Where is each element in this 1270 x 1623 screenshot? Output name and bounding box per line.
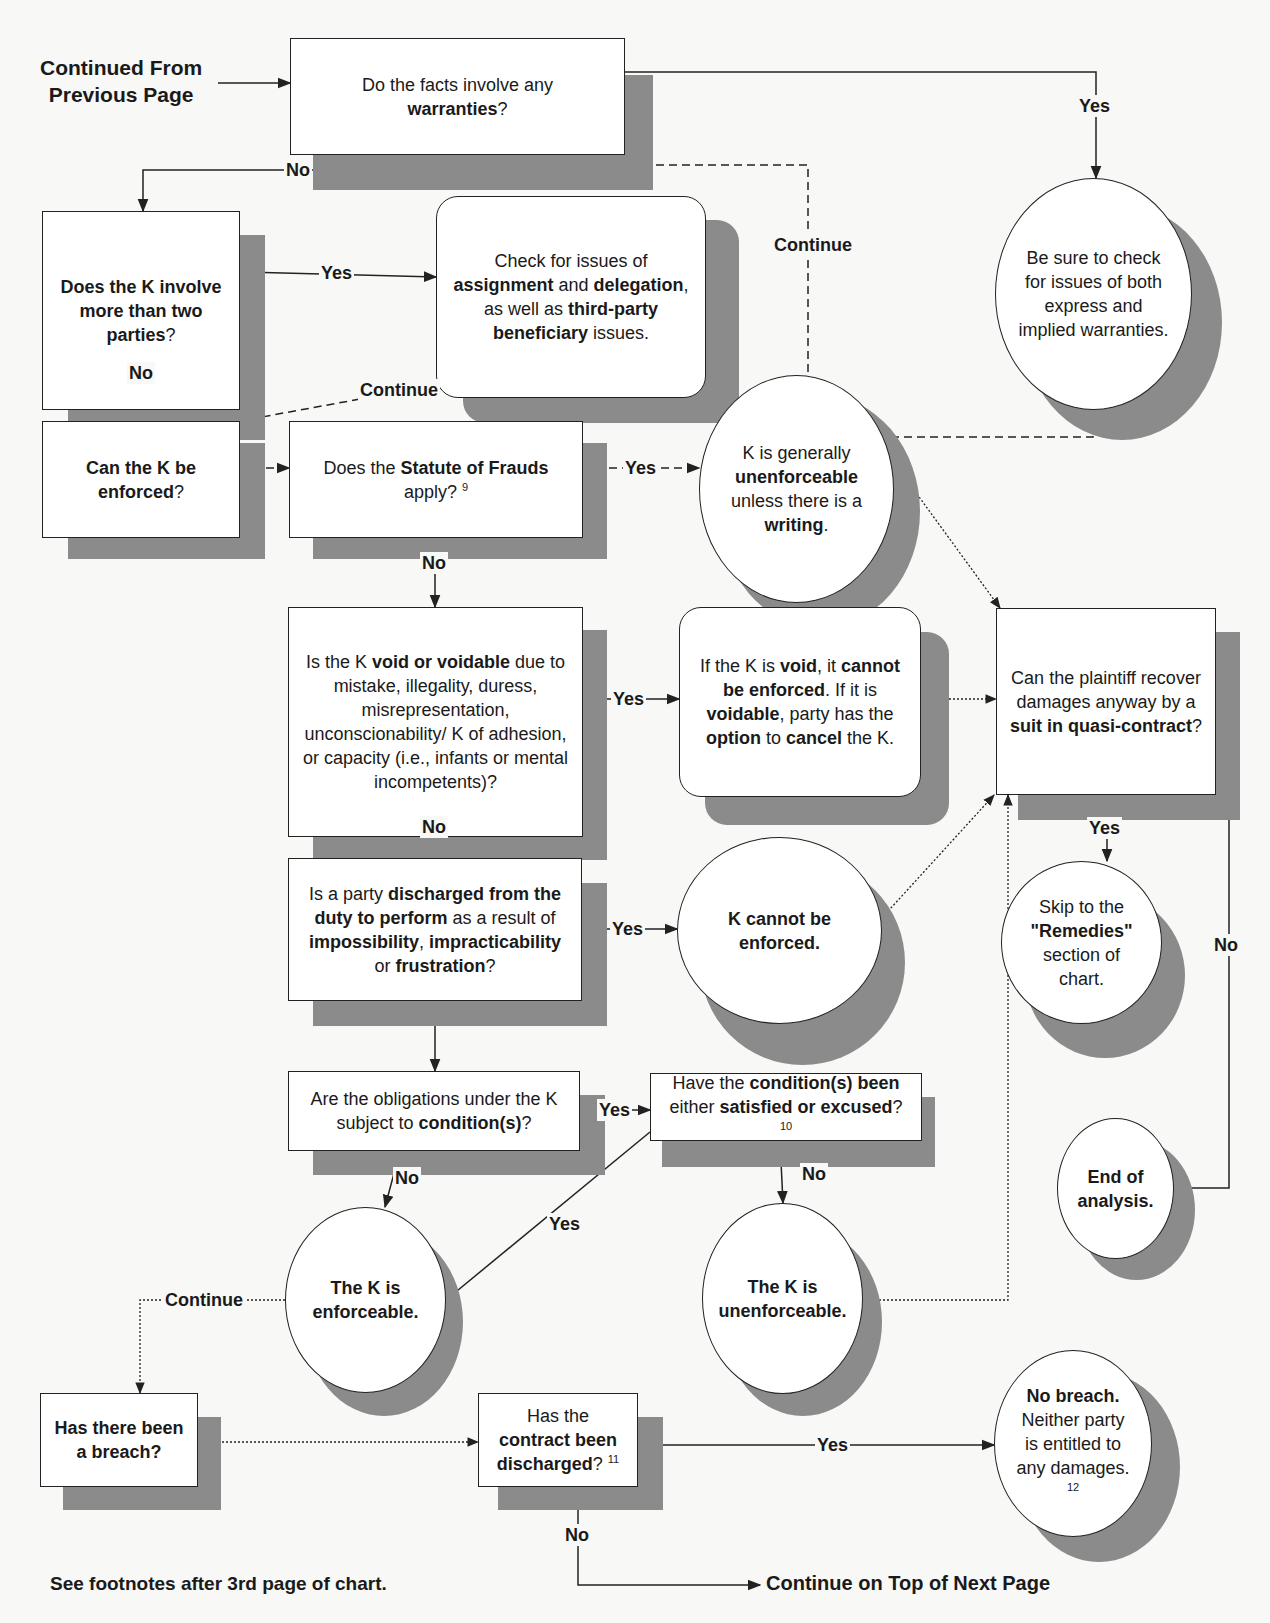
edge-label-quasi-yes: Yes [1087, 817, 1122, 839]
continue-next-page: Continue on Top of Next Page [766, 1572, 1050, 1595]
node-statute-of-frauds: Does the Statute of Frauds apply? 9 [289, 421, 583, 538]
node-assignment-delegation: Check for issues of assignment and deleg… [436, 196, 706, 398]
edge-warranties-yes [625, 72, 1096, 178]
node-cannot-be-enforced: K cannot be enforced. [677, 837, 882, 1024]
node-text: Check for issues of assignment and deleg… [447, 249, 695, 345]
node-text: The K is enforceable. [304, 1276, 427, 1324]
edge-label-warranties-yes: Yes [1077, 95, 1112, 117]
node-breach: Has there been a breach? [40, 1393, 198, 1487]
edge-unenforceable-to-quasi [863, 795, 1008, 1300]
node-can-k-be-enforced: Can the K be enforced? [42, 421, 240, 538]
edge-label-sof-no: No [420, 552, 448, 574]
node-contract-discharged: Has the contract been discharged? 11 [478, 1393, 638, 1487]
node-text: K is generally unenforceable unless ther… [718, 441, 875, 537]
node-conditions: Are the obligations under the K subject … [288, 1071, 580, 1151]
node-k-unenforceable: The K is unenforceable. [702, 1203, 863, 1394]
edge-label-assign-continue: Continue [358, 379, 440, 401]
node-text: Be sure to check for issues of both expr… [1014, 246, 1173, 342]
edge-label-parties-yes: Yes [319, 262, 354, 284]
node-text: Do the facts involve any warranties? [362, 73, 553, 121]
node-text: No breach. Neither party is entitled to … [1013, 1384, 1133, 1504]
node-text: If the K is void, it cannot be enforced.… [690, 654, 910, 750]
node-text: K cannot be enforced. [696, 907, 863, 955]
edge-label-discharged-no: No [563, 1524, 591, 1546]
node-end-of-analysis: End of analysis. [1057, 1118, 1174, 1259]
node-text: Does the Statute of Frauds apply? 9 [300, 456, 572, 504]
edge-label-satisfied-no: No [800, 1163, 828, 1185]
node-conditions-satisfied: Have the condition(s) been either satisf… [650, 1073, 922, 1141]
node-text: Does the K involve more than two parties… [53, 275, 229, 347]
edge-label-void-yes: Yes [611, 688, 646, 710]
node-text: Has there been a breach? [51, 1416, 187, 1464]
node-text: Is a party discharged from the duty to p… [299, 882, 571, 978]
node-quasi-contract: Can the plaintiff recover damages anyway… [996, 608, 1216, 795]
edge-label-conditions-no: No [393, 1167, 421, 1189]
node-text: End of analysis. [1076, 1165, 1155, 1213]
node-void-outcome: If the K is void, it cannot be enforced.… [679, 607, 921, 797]
node-check-warranties: Be sure to check for issues of both expr… [995, 178, 1192, 410]
node-void-voidable: Is the K void or voidable due to mistake… [288, 607, 583, 837]
edge-label-quasi-no: No [1212, 934, 1240, 956]
node-generally-unenforceable: K is generally unenforceable unless ther… [699, 375, 894, 603]
node-k-enforceable: The K is enforceable. [285, 1207, 446, 1393]
node-text: The K is unenforceable. [718, 1275, 846, 1323]
node-text: Can the K be enforced? [53, 456, 229, 504]
continued-from-previous-page: Continued From Previous Page [40, 54, 202, 108]
edge-label-warranty-continue: Continue [772, 234, 854, 256]
node-text: Is the K void or voidable due to mistake… [299, 650, 572, 794]
node-text: Has the contract been discharged? 11 [489, 1404, 627, 1476]
node-remedies: Skip to the "Remedies" section of chart. [1001, 861, 1162, 1024]
edge-label-warranties-no: No [284, 159, 312, 181]
flowchart-canvas: Continued From Previous Page See footnot… [0, 0, 1270, 1623]
edge-label-sof-yes: Yes [623, 457, 658, 479]
node-discharged-duty: Is a party discharged from the duty to p… [288, 858, 582, 1001]
node-text: Skip to the "Remedies" section of chart. [1020, 895, 1143, 991]
node-text: Have the condition(s) been either satisf… [661, 1071, 911, 1143]
edge-enforceable-continue [140, 1300, 285, 1393]
node-text: Are the obligations under the K subject … [299, 1087, 569, 1135]
edge-label-parties-no: No [127, 362, 155, 384]
node-warranties: Do the facts involve any warranties? [290, 38, 625, 155]
edge-label-discharged-yes: Yes [815, 1434, 850, 1456]
edge-label-conditions-yes: Yes [597, 1099, 632, 1121]
edge-label-void-no: No [420, 816, 448, 838]
node-text: Can the plaintiff recover damages anyway… [1007, 666, 1205, 738]
edge-label-satisfied-yes: Yes [547, 1213, 582, 1235]
edge-label-enforceable-continue: Continue [163, 1289, 245, 1311]
edge-label-discharge-yes: Yes [610, 918, 645, 940]
node-no-breach: No breach. Neither party is entitled to … [994, 1350, 1152, 1537]
footnote-note: See footnotes after 3rd page of chart. [50, 1573, 387, 1595]
